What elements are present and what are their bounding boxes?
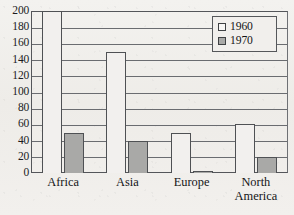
y-tick-label-0: 0	[1, 167, 29, 179]
x-category-label-europe: Europe	[160, 176, 224, 190]
y-tick-label-140: 140	[1, 54, 29, 66]
bar-europe-1970	[193, 171, 213, 173]
y-tick-label-40: 40	[1, 135, 29, 147]
bar-asia-1960	[106, 52, 126, 174]
legend-item-1970: 1970	[218, 34, 271, 48]
y-tick-label-20: 20	[1, 151, 29, 163]
legend-swatch-1970-icon	[218, 37, 226, 45]
y-tick-label-100: 100	[1, 86, 29, 98]
bar-africa-1970	[64, 133, 84, 174]
bar-africa-1960	[42, 11, 62, 173]
bar-europe-1960	[171, 133, 191, 174]
bar-north-america-1960	[235, 124, 255, 173]
y-tick-label-120: 120	[1, 70, 29, 82]
x-category-label-africa: Africa	[31, 176, 95, 190]
y-tick-label-160: 160	[1, 37, 29, 49]
x-label-line: Asia	[116, 175, 139, 189]
chart-page: 200180160140120100806040200 AfricaAsiaEu…	[0, 0, 294, 215]
chart-legend: 1960 1970	[212, 16, 277, 52]
x-axis-category-labels: AfricaAsiaEuropeNorthAmerica	[31, 176, 288, 214]
x-label-line: Africa	[47, 175, 79, 189]
y-axis-tick-labels: 200180160140120100806040200	[0, 11, 29, 173]
legend-swatch-1960-icon	[218, 23, 226, 31]
bar-asia-1970	[128, 141, 148, 173]
bar-north-america-1970	[257, 157, 277, 173]
y-tick-label-80: 80	[1, 102, 29, 114]
legend-label-1960: 1960	[230, 21, 253, 33]
y-tick-label-60: 60	[1, 118, 29, 130]
x-label-line: Europe	[174, 175, 210, 189]
legend-label-1970: 1970	[230, 35, 253, 47]
y-tick-label-180: 180	[1, 21, 29, 33]
x-label-line: America	[224, 190, 288, 204]
legend-item-1960: 1960	[218, 20, 271, 34]
x-category-label-asia: Asia	[95, 176, 159, 190]
x-label-line: North	[241, 175, 270, 189]
x-category-label-north-america: NorthAmerica	[224, 176, 288, 203]
y-tick-label-200: 200	[1, 5, 29, 17]
